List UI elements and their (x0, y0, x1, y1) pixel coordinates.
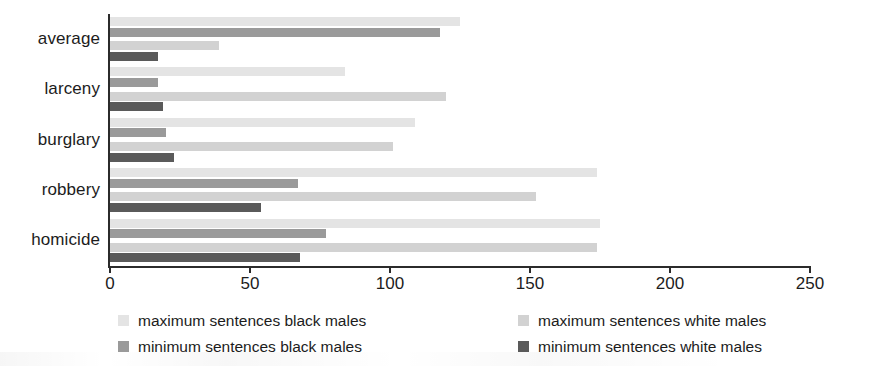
bar-homicide-series-3 (110, 253, 300, 262)
x-axis-tick-label: 250 (796, 274, 824, 293)
bars-container (110, 14, 810, 266)
bar-homicide-series-2 (110, 243, 597, 252)
x-axis-tick (669, 266, 671, 273)
legend-swatch-icon (518, 341, 529, 352)
chart-legend: maximum sentences black males minimum se… (118, 312, 858, 372)
bar-burglary-series-0 (110, 118, 415, 127)
bar-robbery-series-0 (110, 168, 597, 177)
bar-average-series-3 (110, 52, 158, 61)
bar-burglary-series-3 (110, 153, 174, 162)
x-axis-tick-label: 0 (105, 274, 114, 293)
bar-average-series-1 (110, 28, 440, 37)
legend-item-maximum-sentences-white-males: maximum sentences white males (518, 312, 766, 329)
legend-label: maximum sentences white males (538, 312, 766, 329)
y-axis-label-homicide: homicide (0, 231, 100, 248)
bar-larceny-series-2 (110, 92, 446, 101)
legend-label: maximum sentences black males (138, 312, 366, 329)
plot-area: average larceny burglary robbery homicid… (0, 0, 870, 295)
x-axis-tick-label: 50 (241, 274, 260, 293)
x-axis-tick-label: 150 (516, 274, 544, 293)
bar-larceny-series-3 (110, 102, 163, 111)
bar-chart: average larceny burglary robbery homicid… (0, 0, 870, 390)
y-axis-label-larceny: larceny (0, 80, 100, 97)
bar-robbery-series-2 (110, 192, 536, 201)
x-axis-tick (389, 266, 391, 273)
y-axis-label-average: average (0, 30, 100, 47)
bar-burglary-series-2 (110, 142, 393, 151)
bar-average-series-2 (110, 41, 219, 50)
legend-swatch-icon (118, 341, 129, 352)
x-axis-tick-label: 200 (656, 274, 684, 293)
legend-item-minimum-sentences-black-males: minimum sentences black males (118, 338, 362, 355)
x-axis-tick (109, 266, 111, 273)
legend-item-maximum-sentences-black-males: maximum sentences black males (118, 312, 366, 329)
legend-item-minimum-sentences-white-males: minimum sentences white males (518, 338, 762, 355)
legend-swatch-icon (118, 315, 129, 326)
x-axis-tick (809, 266, 811, 273)
legend-swatch-icon (518, 315, 529, 326)
bar-robbery-series-1 (110, 179, 298, 188)
bar-larceny-series-0 (110, 67, 345, 76)
x-axis-line (108, 266, 811, 268)
bar-average-series-0 (110, 17, 460, 26)
bar-larceny-series-1 (110, 78, 158, 87)
bar-homicide-series-1 (110, 229, 326, 238)
y-axis-label-robbery: robbery (0, 181, 100, 198)
y-axis-label-burglary: burglary (0, 131, 100, 148)
x-axis-tick-label: 100 (376, 274, 404, 293)
legend-label: minimum sentences black males (138, 338, 362, 355)
bar-burglary-series-1 (110, 128, 166, 137)
y-axis-category-labels: average larceny burglary robbery homicid… (0, 0, 100, 260)
x-axis-tick (249, 266, 251, 273)
legend-label: minimum sentences white males (538, 338, 762, 355)
x-axis-tick (529, 266, 531, 273)
bar-homicide-series-0 (110, 219, 600, 228)
bar-robbery-series-3 (110, 203, 261, 212)
